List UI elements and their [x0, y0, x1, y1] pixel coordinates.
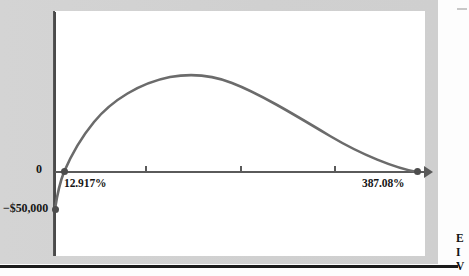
y-intercept-label: −$50,000: [3, 201, 48, 216]
caption-line-2: I: [456, 245, 469, 259]
page-edge-mark-icon: [457, 8, 467, 10]
y-axis-zero-label: 0: [36, 162, 42, 177]
x-axis-tick: [334, 166, 336, 173]
y-axis: [54, 12, 56, 256]
plot-area: [55, 11, 425, 256]
root-label-left: 12.917%: [64, 177, 106, 189]
data-point-root-right: [414, 168, 421, 175]
figure-page: 0 −$50,000 12.917% 387.08% E I V: [0, 0, 469, 276]
data-point-root-left: [61, 168, 68, 175]
x-axis-tick: [145, 166, 147, 173]
data-point-minimum: [52, 206, 59, 213]
caption-line-1: E: [456, 231, 469, 245]
root-label-right: 387.08%: [362, 177, 404, 189]
x-axis-arrowhead: [424, 166, 433, 178]
page-bottom-rule: [0, 265, 458, 268]
x-axis-tick: [240, 166, 242, 173]
